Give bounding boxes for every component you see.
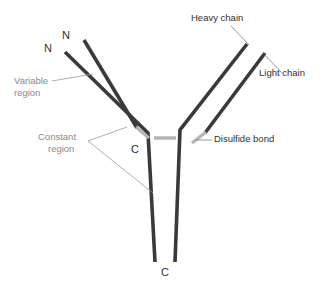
n-terminus-outer-label: N [62,29,70,42]
variable-region-leader-line [52,74,93,81]
disulfide-bond-right [192,132,206,143]
c-terminus-heavy-label: C [161,266,169,279]
constant-region-label-line2: region [48,143,74,154]
light-chain-left-path [84,40,137,128]
n-terminus-inner-label: N [44,42,52,55]
heavy-chain-right-path [175,44,247,262]
antibody-diagram: N N Variable region Constant region Heav… [0,0,327,286]
constant-region-label-line1: Constant [38,131,76,142]
c-terminus-light-label: C [131,143,139,156]
variable-region-label-line1: Variable [14,75,48,86]
heavy-chain-leader-line [231,26,249,45]
constant-region-leader-line-lower [88,141,153,193]
disulfide-bond-label: Disulfide bond [214,133,274,144]
light-chain-right-path [205,53,265,133]
heavy-chain-label: Heavy chain [191,12,243,23]
light-chain-label: Light chain [259,67,305,78]
constant-region-leader-line-upper [88,127,127,141]
variable-region-label-line2: region [14,87,40,98]
